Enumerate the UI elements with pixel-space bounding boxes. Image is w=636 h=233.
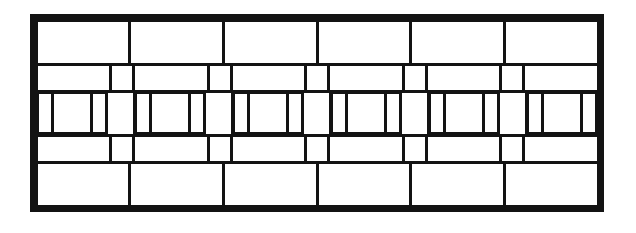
- top-rail-panel: [35, 19, 132, 66]
- row-bottom-rail: [36, 162, 598, 206]
- row-baluster: [36, 91, 598, 135]
- grille-outer-frame: [30, 14, 604, 212]
- bottom-rail-panel: [503, 161, 600, 208]
- baluster-bay: [525, 90, 600, 137]
- upper-band-panel: [425, 63, 503, 93]
- baluster-wide: [541, 91, 583, 135]
- baluster-bay: [329, 90, 404, 137]
- upper-band-panel: [35, 63, 113, 93]
- baluster-mid: [149, 91, 191, 135]
- baluster-narrow: [188, 91, 206, 135]
- top-rail-panel: [409, 19, 506, 66]
- baluster-bay: [133, 90, 208, 137]
- baluster-mid: [443, 91, 485, 135]
- bottom-rail-panel: [35, 161, 132, 208]
- baluster-bay: [231, 90, 306, 137]
- baluster-bay: [35, 90, 110, 137]
- baluster-narrow: [90, 91, 108, 135]
- baluster-post: [108, 91, 134, 135]
- baluster-post: [206, 91, 232, 135]
- baluster-wide: [51, 91, 93, 135]
- lower-band-panel: [327, 134, 405, 164]
- lower-band-panel: [522, 134, 600, 164]
- row-top-rail: [36, 20, 598, 64]
- baluster-bay: [427, 90, 502, 137]
- baluster-mid: [345, 91, 387, 135]
- lower-band-panel: [132, 134, 210, 164]
- bottom-rail-panel: [222, 161, 319, 208]
- baluster-narrow: [286, 91, 304, 135]
- upper-band-panel: [522, 63, 600, 93]
- lower-band-panel: [425, 134, 503, 164]
- baluster-post: [304, 91, 330, 135]
- row-lower-band: [36, 135, 598, 162]
- lower-band-panel: [230, 134, 308, 164]
- top-rail-panel: [503, 19, 600, 66]
- bottom-rail-panel: [409, 161, 506, 208]
- baluster-narrow: [384, 91, 402, 135]
- top-rail-panel: [316, 19, 413, 66]
- top-rail-panel: [222, 19, 319, 66]
- top-rail-panel: [128, 19, 225, 66]
- lower-band-panel: [35, 134, 113, 164]
- row-upper-band: [36, 64, 598, 91]
- upper-band-panel: [327, 63, 405, 93]
- bottom-rail-panel: [128, 161, 225, 208]
- baluster-narrow: [482, 91, 500, 135]
- baluster-mid: [247, 91, 289, 135]
- drawing-canvas: [0, 0, 636, 233]
- upper-band-panel: [230, 63, 308, 93]
- baluster-post: [500, 91, 526, 135]
- baluster-narrow: [580, 91, 598, 135]
- baluster-post: [402, 91, 428, 135]
- upper-band-panel: [132, 63, 210, 93]
- bottom-rail-panel: [316, 161, 413, 208]
